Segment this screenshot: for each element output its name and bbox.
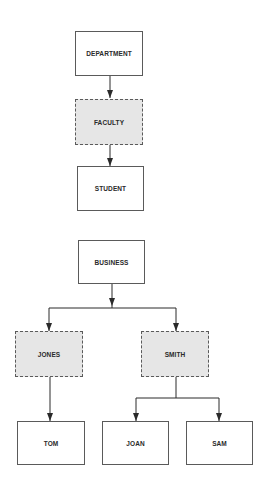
arrow-head-icon [173, 323, 179, 331]
arrow-head-icon [109, 298, 115, 306]
node-department: DEPARTMENT [75, 31, 143, 76]
node-label: SMITH [165, 351, 186, 358]
node-smith: SMITH [141, 331, 209, 377]
arrow-head-icon [47, 413, 53, 421]
node-label: FACULTY [94, 119, 124, 126]
node-joan: JOAN [102, 421, 169, 465]
node-label: BUSINESS [94, 259, 128, 266]
node-label: DEPARTMENT [86, 50, 132, 57]
node-jones: JONES [15, 331, 83, 377]
arrow-head-icon [46, 323, 52, 331]
node-label: STUDENT [95, 185, 126, 192]
arrow-head-icon [107, 158, 113, 166]
node-label: JONES [38, 351, 61, 358]
node-business: BUSINESS [78, 240, 145, 284]
node-faculty: FACULTY [75, 99, 143, 145]
arrow-head-icon [133, 413, 139, 421]
arrow-head-icon [216, 413, 222, 421]
node-tom: TOM [17, 421, 85, 465]
arrow-head-icon [107, 90, 113, 98]
node-label: SAM [212, 440, 227, 447]
diagram-canvas: DEPARTMENT FACULTY STUDENT BUSINESS JONE… [0, 0, 269, 483]
node-label: JOAN [126, 440, 144, 447]
node-sam: SAM [186, 421, 253, 465]
node-label: TOM [44, 440, 59, 447]
node-student: STUDENT [77, 166, 144, 211]
